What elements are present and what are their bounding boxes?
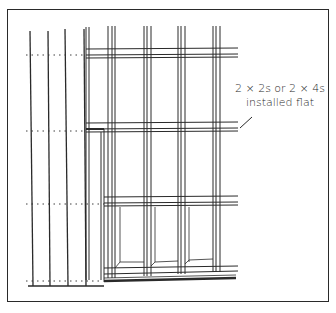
callout-line-2: installed flat	[234, 96, 326, 110]
horizontal-furring-rails	[86, 48, 238, 274]
callout-label: 2 × 2s or 2 × 4s installed flat	[234, 82, 326, 110]
callout-leader	[240, 117, 252, 128]
wall-framing-diagram: 2 × 2s or 2 × 4s installed flat	[0, 0, 336, 313]
outer-border	[8, 10, 329, 302]
vertical-studs	[86, 26, 220, 280]
callout-line-1: 2 × 2s or 2 × 4s	[234, 82, 326, 96]
bay-depth-lines	[115, 207, 213, 268]
diagram-drawing	[0, 0, 336, 313]
base-strip	[104, 278, 236, 281]
vertical-boards	[28, 29, 104, 286]
dotted-guides	[26, 55, 104, 281]
